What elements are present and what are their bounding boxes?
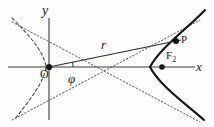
- focus-f2-point: [159, 64, 165, 70]
- x-axis-label: x: [196, 60, 202, 73]
- focus-f2-label: F2: [166, 50, 176, 64]
- focus-f2-subscript: 2: [172, 55, 176, 64]
- point-p-label: P: [181, 34, 187, 45]
- origin-label: O: [40, 68, 49, 80]
- point-p-marker: [173, 38, 179, 44]
- y-axis-label: y: [42, 4, 48, 18]
- radius-vector-line: [49, 40, 181, 67]
- hyperbola-svg: [0, 0, 214, 127]
- hyperbola-figure: y x r φ O P F2: [0, 0, 214, 127]
- polar-angle-label: φ: [68, 72, 75, 85]
- radius-label: r: [101, 38, 106, 51]
